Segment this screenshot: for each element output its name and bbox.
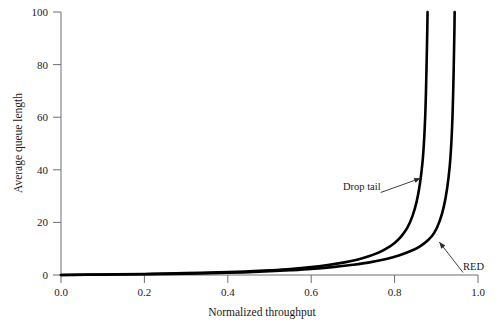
annotation-label-red: RED xyxy=(463,261,484,272)
annotation-label-drop-tail: Drop tail xyxy=(343,181,381,192)
y-tick-label: 100 xyxy=(32,6,49,18)
x-axis-tick-labels: 0.0 0.2 0.4 0.6 0.8 1.0 xyxy=(54,286,485,298)
y-tick-label: 60 xyxy=(37,111,49,123)
chart-figure: 100 80 60 40 20 0 0.0 0.2 0.4 0.6 0.8 1.… xyxy=(0,0,504,328)
y-axis-tick-labels: 100 80 60 40 20 0 xyxy=(32,6,49,281)
x-tick-label: 0.6 xyxy=(304,286,318,298)
annotation-red: RED xyxy=(439,242,484,273)
leader-arrowhead-red xyxy=(439,242,445,249)
y-tick-label: 40 xyxy=(37,164,49,176)
x-tick-label: 0.0 xyxy=(54,286,68,298)
annotation-drop-tail: Drop tail xyxy=(343,178,421,193)
x-tick-label: 0.8 xyxy=(388,286,402,298)
x-axis-title: Normalized throughput xyxy=(208,306,316,319)
x-tick-label: 1.0 xyxy=(471,286,485,298)
x-tick-label: 0.2 xyxy=(138,286,152,298)
curve-red xyxy=(61,12,455,275)
y-axis-title: Average queue length xyxy=(12,93,25,193)
queue-length-vs-throughput-chart: 100 80 60 40 20 0 0.0 0.2 0.4 0.6 0.8 1.… xyxy=(0,0,504,328)
curve-drop-tail xyxy=(61,12,428,275)
data-curves xyxy=(61,12,455,275)
y-axis-ticks xyxy=(53,12,61,275)
y-tick-label: 80 xyxy=(37,59,49,71)
y-tick-label: 20 xyxy=(37,216,49,228)
x-axis-ticks xyxy=(61,275,478,283)
x-tick-label: 0.4 xyxy=(221,286,235,298)
y-tick-label: 0 xyxy=(43,269,49,281)
